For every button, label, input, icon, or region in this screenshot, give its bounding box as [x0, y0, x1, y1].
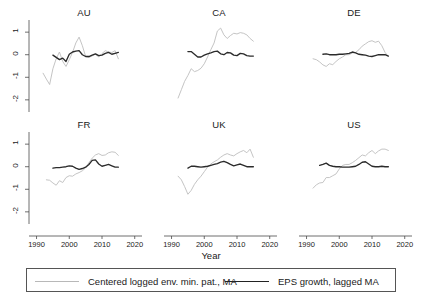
y-tick-label: -1	[11, 67, 20, 85]
x-tick-label: 2000	[326, 240, 352, 249]
panel-title-uk: UK	[165, 119, 273, 130]
panel-title-us: US	[300, 119, 408, 130]
x-tick-label: 2010	[224, 240, 250, 249]
series-line-uk-eps-growth	[188, 161, 253, 168]
x-tick-label: 1990	[294, 240, 320, 249]
y-tick-label: 1	[11, 22, 20, 40]
series-line-ca-env-patents	[178, 28, 253, 98]
y-tick-label: 0	[11, 44, 20, 62]
legend-item-eps-growth: EPS growth, lagged MA	[225, 269, 379, 293]
legend-label-env-patents: Centered logged env. min. pat., MA	[88, 276, 237, 287]
series-line-ca-eps-growth	[188, 51, 253, 57]
series-line-au-env-patents	[43, 37, 118, 84]
x-tick-label: 2020	[392, 240, 418, 249]
series-line-uk-env-patents	[178, 149, 253, 194]
series-line-us-eps-growth	[320, 162, 389, 167]
panel-title-au: AU	[30, 7, 138, 18]
legend-swatch-line-dark	[225, 281, 269, 282]
chart-figure: 10-1-2AUCADE10-1-21990200020102020FR1990…	[0, 0, 422, 298]
panel-title-fr: FR	[30, 119, 138, 130]
x-tick-label: 2000	[56, 240, 82, 249]
y-tick-label: -2	[11, 201, 20, 219]
y-tick-label: -1	[11, 179, 20, 197]
y-tick-label: 1	[11, 134, 20, 152]
x-tick-label: 2020	[257, 240, 283, 249]
x-tick-label: 2010	[89, 240, 115, 249]
x-tick-label: 2000	[191, 240, 217, 249]
legend-item-env-patents: Centered logged env. min. pat., MA	[35, 269, 237, 293]
legend-swatch-line-light	[35, 281, 79, 282]
series-line-de-eps-growth	[323, 52, 388, 57]
x-tick-label: 1990	[24, 240, 50, 249]
y-tick-label: 0	[11, 156, 20, 174]
y-tick-label: -2	[11, 89, 20, 107]
panel-title-ca: CA	[165, 7, 273, 18]
series-line-au-eps-growth	[53, 51, 118, 62]
chart-legend: Centered logged env. min. pat., MA EPS g…	[26, 268, 396, 292]
x-tick-label: 2010	[359, 240, 385, 249]
x-axis-title: Year	[0, 250, 422, 261]
x-tick-label: 1990	[159, 240, 185, 249]
legend-label-eps-growth: EPS growth, lagged MA	[278, 276, 379, 287]
panel-title-de: DE	[300, 7, 408, 18]
x-tick-label: 2020	[122, 240, 148, 249]
series-line-us-env-patents	[313, 149, 388, 188]
